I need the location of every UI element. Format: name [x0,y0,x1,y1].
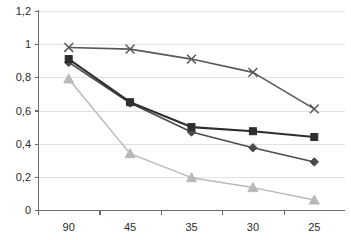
x-tick-label: 30 [247,221,259,233]
y-tick-label: 0,6 [16,105,31,117]
data-point-square [65,56,72,63]
series-square [65,56,318,141]
data-point-diamond [310,158,318,166]
series-triangle [64,74,320,204]
axes-group [35,10,346,215]
x-tick-label: 35 [185,221,197,233]
data-point-square [249,128,256,135]
line-chart: 00,20,40,60,811,2 9045353025 [0,0,351,240]
series-group [64,43,320,204]
y-tick-label: 0,8 [16,71,31,83]
x-tick-label: 25 [308,221,320,233]
y-tick-label: 1,2 [16,5,31,17]
y-tick-label: 0,2 [16,171,31,183]
y-tick-label: 0 [25,204,31,216]
series-diamond [65,58,319,166]
x-tick-label: 90 [63,221,75,233]
y-axis-tick-labels: 00,20,40,60,811,2 [16,5,31,216]
data-point-square [188,124,195,131]
data-point-triangle [64,74,74,83]
data-point-cross [310,104,319,113]
chart-canvas: 00,20,40,60,811,2 9045353025 [0,0,351,240]
y-tick-label: 0,4 [16,138,31,150]
data-point-square [127,99,134,106]
data-point-square [311,134,318,141]
y-tick-label: 1 [25,38,31,50]
data-point-diamond [249,144,257,152]
x-axis-tick-labels: 9045353025 [63,221,321,233]
x-tick-label: 45 [124,221,136,233]
